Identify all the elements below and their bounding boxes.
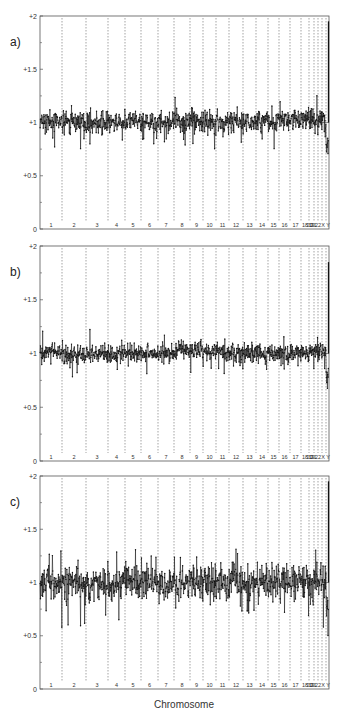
y-tick-label: +1.5 [23,66,37,73]
chromosome-label: 13 [246,222,252,228]
chromosome-label: 14 [259,454,265,460]
chromosome-label: 9 [195,682,198,688]
y-tick-label: +1 [29,119,37,126]
chromosome-label: 11 [220,454,226,460]
chromosome-label: X [321,222,325,228]
chromosome-label: X [321,682,325,688]
chart-panel-a: a)0+0.5+1+1.5+21234567891011121314151617… [10,13,330,233]
chromosome-label: 2 [72,682,75,688]
y-tick-label: +2 [29,13,37,20]
chromosome-label: 12 [233,222,239,228]
chromosome-label: 22 [315,682,321,688]
y-tick-label: +0.5 [23,172,37,179]
chromosome-label: 6 [148,454,151,460]
chromosome-label: Y [326,222,330,228]
chromosome-label: X [321,454,325,460]
chromosome-label: 1 [49,454,52,460]
chromosome-label: 9 [195,222,198,228]
chromosome-label: 10 [206,454,212,460]
panel-label: c) [10,495,20,509]
cnv-figure: a)0+0.5+1+1.5+21234567891011121314151617… [0,0,341,719]
chromosome-label: 15 [270,454,276,460]
chromosome-label: 11 [220,682,226,688]
chromosome-label: 16 [281,454,287,460]
chromosome-label: 1 [49,222,52,228]
chromosome-label: 16 [281,222,287,228]
chromosome-label: 15 [270,222,276,228]
chromosome-label: 6 [148,222,151,228]
y-tick-label: +1.5 [23,296,37,303]
y-tick-label: +0.5 [23,404,37,411]
panel-label: a) [10,35,21,49]
chromosome-label: 2 [72,222,75,228]
chromosome-label: 22 [315,454,321,460]
chromosome-label: 6 [148,682,151,688]
chromosome-label: 2 [72,454,75,460]
y-tick-label: +2 [29,243,37,250]
y-tick-label: +0.5 [23,632,37,639]
chromosome-label: 8 [180,682,183,688]
chromosome-label: 4 [115,222,118,228]
chromosome-label: 7 [164,454,167,460]
chromosome-label: 3 [95,454,98,460]
y-tick-label: 0 [33,686,37,693]
chromosome-label: 9 [195,454,198,460]
y-tick-label: +2 [29,473,37,480]
chromosome-label: 22 [315,222,321,228]
chromosome-label: 12 [233,454,239,460]
y-tick-label: +1.5 [23,526,37,533]
data-series [39,21,329,154]
chromosome-label: 13 [246,682,252,688]
chromosome-label: 7 [164,222,167,228]
x-axis-label: Chromosome [154,699,214,710]
chromosome-label: 5 [131,682,134,688]
chromosome-label: 14 [259,682,265,688]
chromosome-label: 16 [281,682,287,688]
chromosome-label: 1 [49,682,52,688]
chromosome-label: 15 [270,682,276,688]
chart-panel-b: b)0+0.5+1+1.5+21234567891011121314151617… [10,243,330,465]
data-series [39,481,329,636]
chromosome-label: 13 [246,454,252,460]
chromosome-label: 17 [292,682,298,688]
chromosome-label: 17 [292,222,298,228]
chromosome-label: 11 [220,222,226,228]
chromosome-label: 10 [206,222,212,228]
panel-label: b) [10,265,21,279]
y-tick-label: +1 [29,350,37,357]
chromosome-label: 12 [233,682,239,688]
chromosome-label: 14 [259,222,265,228]
data-series [39,262,329,389]
chromosome-label: 17 [292,454,298,460]
chromosome-label: 8 [180,222,183,228]
chromosome-label: 7 [164,682,167,688]
chromosome-label: 5 [131,222,134,228]
y-tick-label: +1 [29,579,37,586]
chromosome-label: 3 [95,682,98,688]
chromosome-label: 5 [131,454,134,460]
chromosome-label: 10 [206,682,212,688]
chromosome-label: 4 [115,682,118,688]
y-tick-label: 0 [33,458,37,465]
y-tick-label: 0 [33,226,37,233]
chromosome-label: 3 [95,222,98,228]
chart-panel-c: c)0+0.5+1+1.5+21234567891011121314151617… [10,473,330,693]
chromosome-label: 4 [115,454,118,460]
chromosome-label: Y [326,682,330,688]
chromosome-label: Y [326,454,330,460]
chromosome-label: 8 [180,454,183,460]
